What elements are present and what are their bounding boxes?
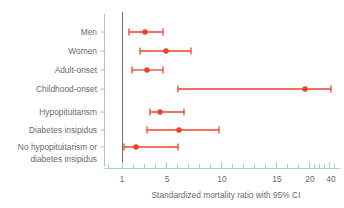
x-tick-label-5: 5 [165,174,170,184]
x-tick-label-20: 20 [305,174,315,184]
x-axis-minor-ticks [109,162,335,168]
point-marker-childhood-onset [302,86,308,92]
category-label-no-hypopituitarism-line2: diabetes insipidus [30,154,97,164]
x-tick-label-10: 10 [217,174,227,184]
y-axis-ticks [101,32,105,147]
x-tick-label-1: 1 [120,174,125,184]
data-row-childhood-onset [178,86,331,93]
category-label-adult-onset: Adult-onset [55,65,98,75]
x-tick-label-15: 15 [272,174,282,184]
point-marker-men [142,29,148,35]
data-row-women [140,48,191,55]
category-label-no-hypopituitarism-line1: No hypopituitarism or [18,142,97,152]
category-label-hypopituitarism: Hypopituitarism [39,107,97,117]
data-row-diabetes-insipidus [147,127,219,134]
category-label-women: Women [68,46,97,56]
data-row-hypopituitarism [150,109,184,116]
point-marker-diabetes-insipidus [176,127,182,133]
forest-plot-chart: Men Women Adult-onset Childhood-onset Hy… [0,0,344,208]
data-row-adult-onset [132,67,163,74]
point-marker-no-hypopituitarism [133,144,139,150]
category-label-diabetes-insipidus: Diabetes insipidus [29,125,97,135]
x-tick-label-40: 40 [326,174,336,184]
data-row-men [129,29,163,36]
category-label-childhood-onset: Childhood-onset [36,84,98,94]
point-marker-adult-onset [144,67,150,73]
point-marker-women [163,48,169,54]
data-series [124,29,331,151]
category-label-men: Men [81,27,98,37]
point-marker-hypopituitarism [157,109,163,115]
data-row-no-hypopituitarism [124,144,178,151]
x-axis-title: Standardized mortality ratio with 95% CI [152,190,301,200]
